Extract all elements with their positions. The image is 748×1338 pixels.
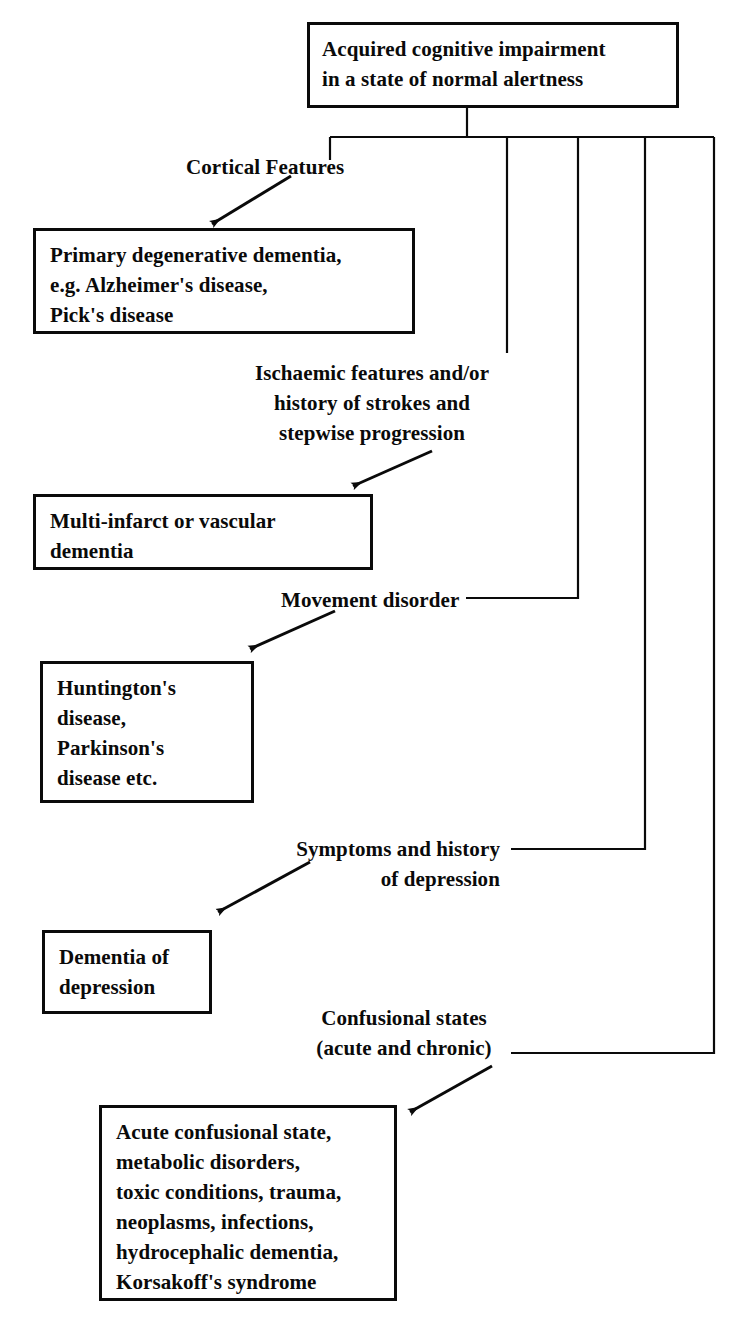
arrow-to-ischaemic-box (353, 451, 432, 486)
arrow-to-confusional-box (410, 1066, 492, 1112)
edge-label-cortical-features: Cortical Features (186, 152, 416, 182)
arrow-to-movement-box (250, 611, 335, 649)
node-root[interactable]: Acquired cognitive impairment in a state… (307, 22, 679, 108)
edge-label-confusional-states: Confusional states (acute and chronic) (281, 1003, 527, 1063)
node-acute-confusional-state[interactable]: Acute confusional state, metabolic disor… (99, 1105, 397, 1301)
connector-branch-confusional (511, 137, 714, 1053)
node-huntington-parkinson[interactable]: Huntington's disease, Parkinson's diseas… (40, 661, 254, 803)
connector-branch-depression (511, 137, 645, 849)
arrow-to-cortical-box (212, 176, 291, 224)
flowchart-page: Acquired cognitive impairment in a state… (0, 0, 748, 1338)
edge-label-movement-disorder: Movement disorder (281, 585, 531, 615)
edge-label-symptoms-of-depression: Symptoms and history of depression (222, 834, 500, 894)
edge-label-ischaemic-features: Ischaemic features and/or history of str… (212, 358, 532, 448)
node-primary-degenerative-dementia[interactable]: Primary degenerative dementia, e.g. Alzh… (33, 228, 415, 334)
node-dementia-of-depression[interactable]: Dementia of depression (42, 930, 212, 1014)
node-multi-infarct-vascular-dementia[interactable]: Multi-infarct or vascular dementia (33, 494, 373, 570)
